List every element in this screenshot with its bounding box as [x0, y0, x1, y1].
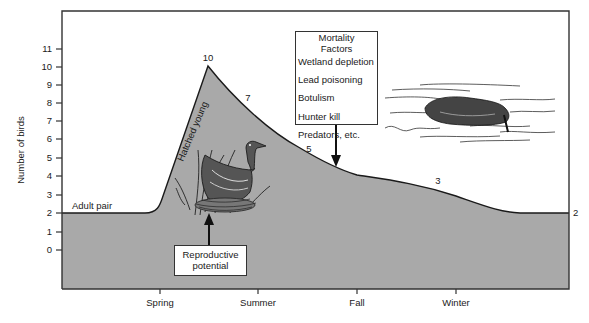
y-tick-11: 11	[42, 43, 52, 54]
x-tick-spring: Spring	[146, 297, 173, 308]
y-tick-4: 4	[47, 170, 52, 181]
peak-value-label: 10	[203, 52, 214, 63]
mortality-factors-box: Mortality Factors Wetland depletion Lead…	[295, 31, 378, 125]
x-tick-summer: Summer	[240, 297, 276, 308]
y-tick-10: 10	[41, 61, 52, 72]
y-tick-0: 0	[47, 244, 52, 255]
value-3-label: 3	[435, 175, 440, 186]
mortality-item-hunter-kill: Hunter kill	[296, 108, 377, 127]
dead-duck-illustration	[385, 84, 555, 142]
y-tick-9: 9	[47, 79, 52, 90]
y-axis-tick-labels: 11 10 9 8 7 6 5 4 3 2 1 0	[41, 43, 52, 255]
x-axis-tick-labels: Spring Summer Fall Winter	[146, 297, 469, 308]
y-tick-2: 2	[47, 207, 52, 218]
mortality-item-botulism: Botulism	[296, 89, 377, 108]
y-axis-ticks	[56, 49, 62, 250]
value-7-label: 7	[245, 92, 250, 103]
adult-pair-label: Adult pair	[72, 200, 112, 211]
y-axis-label: Number of birds	[15, 116, 26, 184]
y-tick-3: 3	[47, 189, 52, 200]
y-tick-5: 5	[47, 152, 52, 163]
y-tick-8: 8	[47, 97, 52, 108]
value-2-label: 2	[573, 207, 578, 218]
mortality-item-lead-poisoning: Lead poisoning	[296, 71, 377, 90]
y-tick-1: 1	[47, 226, 52, 237]
y-tick-6: 6	[47, 133, 52, 144]
x-tick-winter: Winter	[442, 297, 469, 308]
reproductive-potential-box: Reproductive potential	[174, 245, 247, 276]
x-axis-ticks	[160, 289, 456, 294]
x-tick-fall: Fall	[349, 297, 364, 308]
mortality-item-predators: Predators, etc.	[296, 126, 377, 145]
reproductive-line2: potential	[175, 261, 246, 272]
mortality-title-line2: Factors	[296, 44, 377, 55]
y-tick-7: 7	[47, 115, 52, 126]
mortality-item-wetland-depletion: Wetland depletion	[296, 55, 377, 68]
